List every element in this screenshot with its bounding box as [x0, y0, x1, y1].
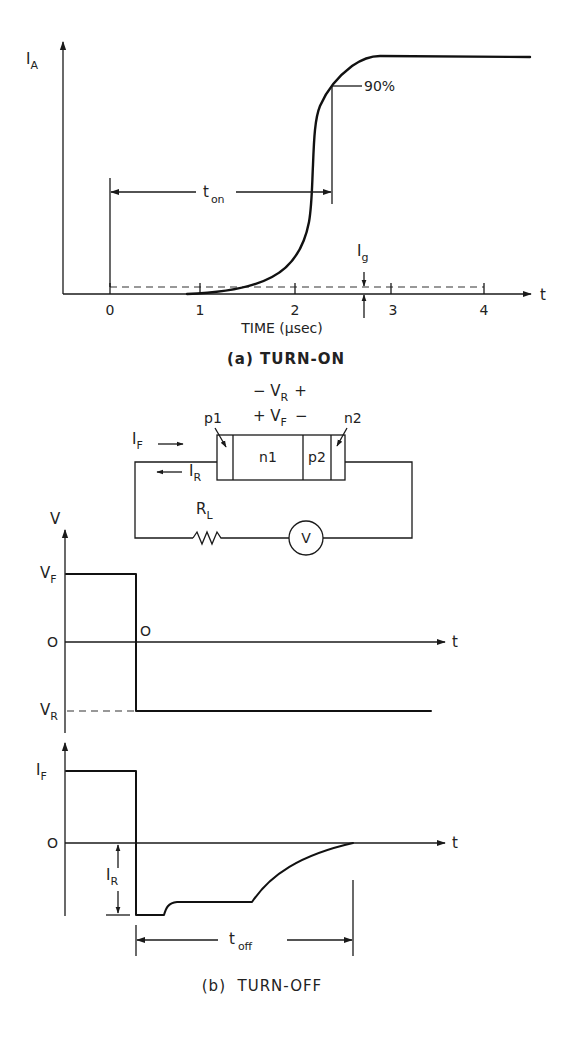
panel-b-voltage: V VF O VR t O	[40, 510, 458, 733]
load-resistor	[193, 532, 289, 544]
n2-region-label: n2	[344, 410, 362, 426]
panel-b-current: IF O t IR toff (b) TURN-OFF	[36, 743, 458, 995]
svg-text:4: 4	[480, 302, 489, 318]
vf-level-label: VF	[40, 564, 57, 586]
svg-text:0: 0	[106, 302, 115, 318]
source-label: V	[301, 530, 311, 546]
svg-text:3: 3	[389, 302, 398, 318]
n1-region-label: n1	[259, 449, 277, 465]
v-zero-label: O	[47, 634, 58, 650]
v-t-axis-label: t	[452, 633, 458, 651]
test-circuit: − VR+ + VF− n1 p2 p1 n2 V RL IF IR	[132, 382, 412, 555]
tick-labels: 0 1 2 3 4	[106, 302, 489, 318]
panel-a-turn-on: IA t 0 1 2 3 4 TIME (μsec) 90% ton	[26, 42, 546, 368]
p2-region-label: p2	[308, 449, 326, 465]
if-level-label: IF	[36, 761, 47, 783]
t-axis-label: t	[540, 286, 546, 304]
svg-text:1: 1	[196, 302, 205, 318]
ir-level-label: IR	[106, 866, 118, 888]
thyristor-switching-figure: IA t 0 1 2 3 4 TIME (μsec) 90% ton	[0, 0, 572, 1038]
p1-region-label: p1	[204, 410, 222, 426]
t-on-label: ton	[203, 183, 225, 206]
v-axis-label: V	[50, 510, 61, 528]
ir-label: IR	[189, 462, 201, 484]
vf-polarity-label: + VF−	[253, 407, 308, 429]
i-zero-label: O	[47, 835, 58, 851]
rl-label: RL	[196, 500, 213, 522]
tick-marks	[110, 283, 484, 294]
svg-text:2: 2	[291, 302, 300, 318]
right-wire	[323, 462, 412, 538]
i-t-axis-label: t	[452, 834, 458, 852]
ninety-percent-label: 90%	[364, 78, 395, 94]
ia-axis-label: IA	[26, 50, 38, 72]
ig-label: Ig	[357, 242, 368, 264]
vr-polarity-label: − VR+	[253, 382, 307, 404]
time-axis-title: TIME (μsec)	[240, 320, 323, 336]
if-label: IF	[132, 430, 143, 452]
vr-level-label: VR	[40, 701, 58, 723]
caption-turn-off: (b) TURN-OFF	[202, 977, 322, 995]
switch-instant-label: O	[140, 623, 151, 639]
caption-turn-on: (a) TURN-ON	[227, 350, 345, 368]
t-off-label: toff	[229, 930, 253, 953]
